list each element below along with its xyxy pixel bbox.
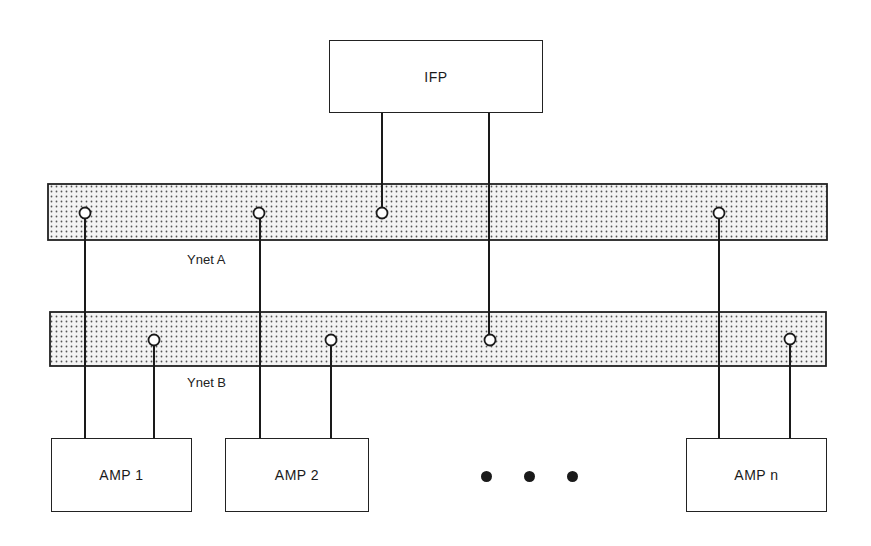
- tap-node-icon: [149, 335, 160, 346]
- ampn-label: AMP n: [734, 467, 778, 483]
- ellipsis-dot-icon: [524, 471, 535, 482]
- amp1-node: AMP 1: [51, 438, 192, 512]
- ynet-a-label: Ynet A: [187, 252, 225, 267]
- tap-node-icon: [485, 335, 496, 346]
- ellipsis-dot-icon: [481, 471, 492, 482]
- ifp-label: IFP: [424, 69, 447, 85]
- ellipsis-dot-icon: [567, 471, 578, 482]
- tap-node-icon: [377, 208, 388, 219]
- ynet-b-bus: [50, 312, 826, 366]
- tap-node-icon: [785, 334, 796, 345]
- tap-node-icon: [80, 208, 91, 219]
- tap-node-icon: [254, 208, 265, 219]
- ynet-a-bus: [48, 184, 827, 240]
- ampn-node: AMP n: [686, 438, 827, 512]
- tap-node-icon: [714, 208, 725, 219]
- ifp-node: IFP: [329, 40, 543, 113]
- tap-node-icon: [326, 335, 337, 346]
- amp1-label: AMP 1: [99, 467, 143, 483]
- amp2-label: AMP 2: [275, 467, 319, 483]
- ynet-b-label: Ynet B: [187, 375, 226, 390]
- amp2-node: AMP 2: [225, 438, 369, 512]
